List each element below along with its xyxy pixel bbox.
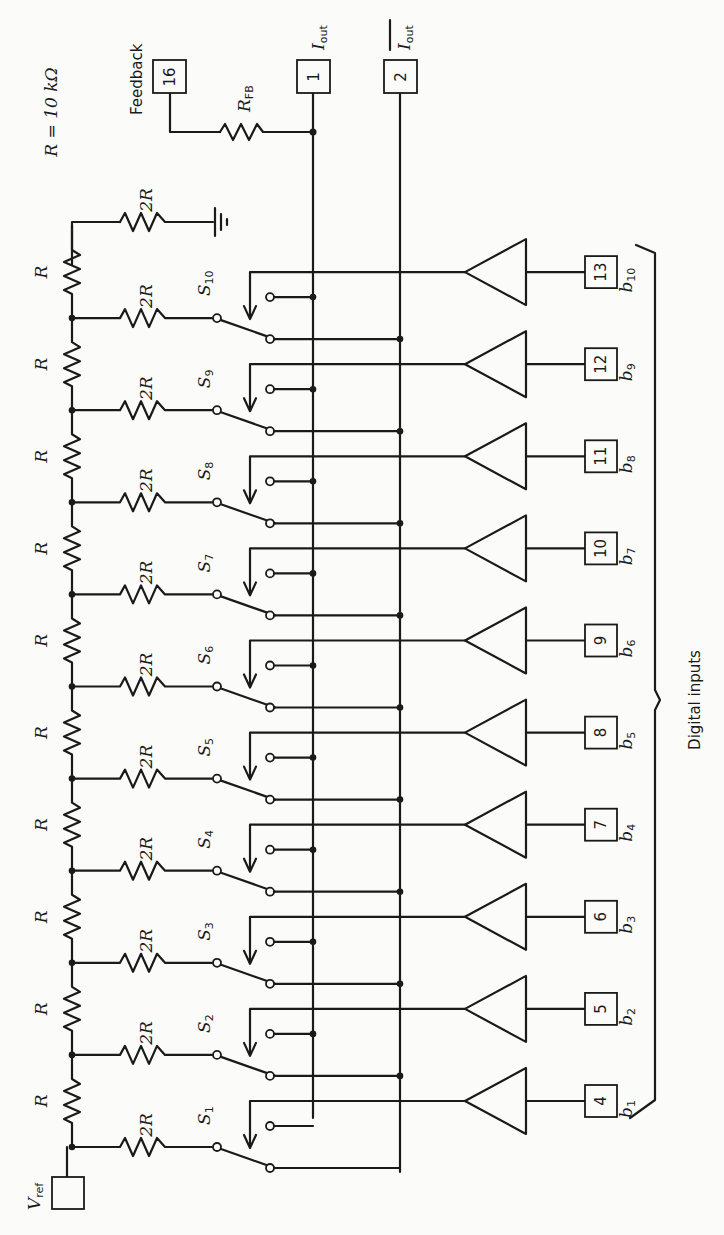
switch-pivot [213,683,221,691]
series-r-resistor [64,226,80,318]
pin-number: 6 [592,912,610,922]
series-r-label: R [31,1002,51,1016]
bit-label: b3 [616,916,638,934]
control-line [250,825,465,871]
shunt-2r-label: 2R [136,1021,156,1046]
buffer-triangle-icon [465,239,526,305]
switch-contact-iout-bar [266,796,274,804]
pin-number: 13 [592,263,610,282]
switch-label: S3 [194,922,216,941]
shunt-2r-resistor [72,954,212,972]
ground-icon [215,208,227,236]
bit-label: b4 [616,824,638,842]
series-r-label: R [31,818,51,832]
control-line [250,917,465,963]
control-line [250,364,465,410]
control-line [250,548,465,594]
shunt-2r-label: 2R [136,284,156,309]
switch-contact-iout-bar [266,1072,274,1080]
pin-number: 10 [592,539,610,558]
switch-pivot [213,314,221,322]
series-r-resistor [64,410,80,502]
shunt-2r-label: 2R [136,1113,156,1138]
switch-contact-iout [266,938,274,946]
iout-label: Iout [308,25,330,51]
shunt-2r-resistor [72,1046,212,1064]
series-r-resistor [64,963,80,1055]
bit-label: b6 [616,640,638,658]
rfb-label: RFB [234,85,256,113]
switch-contact-iout [266,293,274,301]
switch-contact-iout [266,477,274,485]
vref-label: Vref [24,1182,46,1210]
bit-stages: R2R4b1S1R2R5b2S2R2R6b3S3R2R7b4S4R2R8b5S5… [31,226,638,1172]
control-line [250,733,465,779]
series-r-resistor [64,502,80,594]
switch-pivot [213,775,221,783]
iout-bar-junction [397,1073,404,1080]
bit-stage-6: R2R9b6S6 [31,594,638,711]
switch-contact-iout [266,1122,274,1130]
switch-label: S8 [194,462,216,481]
control-line [250,272,465,318]
series-r-label: R [31,358,51,372]
bit-stage-2: R2R5b2S2 [31,963,638,1080]
switch-label: S2 [194,1014,216,1033]
iout-bar-junction [397,796,404,803]
buffer-triangle-icon [465,884,526,950]
bit-label: b1 [616,1100,638,1118]
pin-number: 7 [592,820,610,830]
series-r-label: R [31,450,51,464]
switch-label: S7 [194,554,216,573]
termination-2r-label: 2R [136,188,156,213]
iout-junction [310,1031,317,1038]
rfb-junction [310,129,317,136]
buffer-triangle-icon [465,1068,526,1134]
bit-stage-8: R2R11b8S8 [31,410,638,527]
switch-label: S9 [194,370,216,389]
iout-bar-junction [397,428,404,435]
pin-number: 5 [592,1004,610,1014]
bit-label: b8 [616,455,638,473]
switch-contact-iout [266,662,274,670]
vref-box [52,1177,84,1209]
series-r-resistor [64,779,80,871]
iout-bar-junction [397,704,404,711]
control-line [250,1009,465,1055]
switch-contact-iout-bar [266,519,274,527]
series-r-label: R [31,265,51,279]
shunt-2r-label: 2R [136,745,156,770]
iout-junction [310,478,317,485]
digital-inputs-label: Digital inputs [686,650,704,750]
iout-bar-junction [397,612,404,619]
shunt-2r-resistor [72,678,212,696]
iout-bar-junction [397,888,404,895]
pin-number: 8 [592,728,610,738]
series-r-resistor [64,318,80,410]
switch-pivot [213,1143,221,1151]
switch-pivot [213,959,221,967]
iout-junction [310,662,317,669]
switch-contact-iout-bar [266,980,274,988]
pin-number: 12 [592,355,610,374]
control-line [250,641,465,687]
buffer-triangle-icon [465,515,526,581]
bit-label: b5 [616,732,638,750]
shunt-2r-label: 2R [136,929,156,954]
buffer-triangle-icon [465,331,526,397]
shunt-2r-resistor [72,862,212,880]
switch-contact-iout [266,385,274,393]
rfb-resistor [220,124,313,140]
series-r-resistor [64,871,80,963]
bit-stage-7: R2R10b7S7 [31,502,638,619]
switch-label: S1 [194,1106,216,1125]
iout-bar-junction [397,336,404,343]
switch-contact-iout-bar [266,611,274,619]
bit-label: b9 [616,363,638,381]
ladder-top-wire [72,222,120,265]
shunt-2r-resistor [72,493,212,511]
switch-contact-iout [266,569,274,577]
series-r-label: R [31,1094,51,1108]
shunt-2r-resistor [72,401,212,419]
control-line [250,456,465,502]
